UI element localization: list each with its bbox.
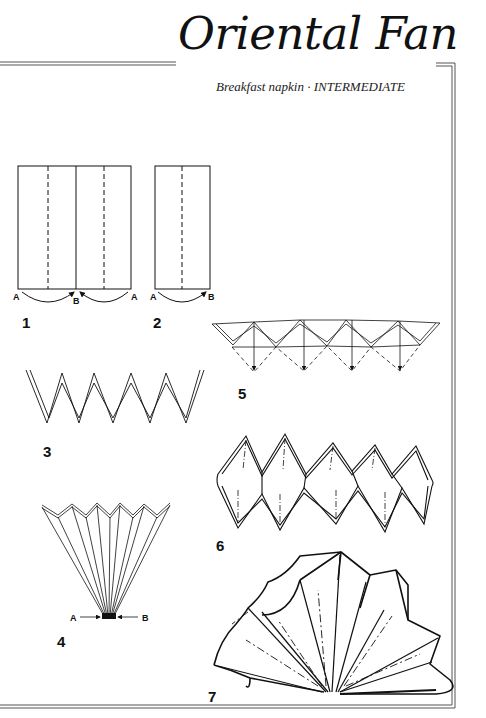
instruction-illustrations: A B A A B A B <box>0 0 486 718</box>
step-5-diagram <box>212 320 440 372</box>
svg-text:A: A <box>13 292 20 302</box>
step-number-1: 1 <box>22 314 30 331</box>
step-number-5: 5 <box>238 385 246 402</box>
svg-text:B: B <box>142 613 149 623</box>
svg-text:A: A <box>70 613 77 623</box>
step-number-3: 3 <box>43 443 51 460</box>
svg-text:A: A <box>150 292 157 302</box>
svg-text:B: B <box>73 296 80 306</box>
svg-text:A: A <box>131 292 138 302</box>
step-2-diagram <box>155 166 210 302</box>
step-7-diagram <box>214 552 453 694</box>
step-number-2: 2 <box>153 314 161 331</box>
step-number-7: 7 <box>208 688 216 705</box>
step-1-diagram <box>18 166 131 302</box>
step-3-diagram <box>26 370 204 423</box>
step-number-4: 4 <box>57 633 65 650</box>
step-6-diagram <box>217 434 433 532</box>
svg-text:B: B <box>208 292 215 302</box>
step-number-6: 6 <box>216 537 224 554</box>
step-4-diagram <box>42 503 170 617</box>
